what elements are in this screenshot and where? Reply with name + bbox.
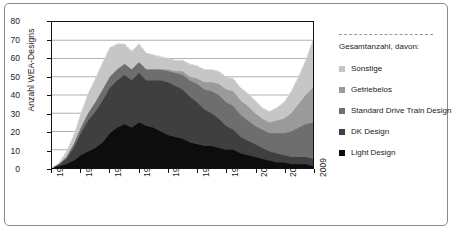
plot-region <box>51 21 314 169</box>
legend-swatch-icon <box>339 129 345 135</box>
y-axis-tick-label: 50 <box>0 72 20 82</box>
legend-item[interactable]: Getriebelos <box>339 86 449 94</box>
legend-item-label: Getriebelos <box>351 86 392 94</box>
legend-item-label: Sonstige <box>351 65 382 73</box>
x-axis-tick-mark <box>168 169 169 173</box>
y-axis-tick-label: 30 <box>0 109 20 119</box>
x-axis-tick-mark <box>139 169 140 173</box>
x-axis-tick-label: 2009 <box>318 158 328 177</box>
legend-swatch-icon <box>339 87 345 93</box>
x-axis-tick-mark <box>80 169 81 173</box>
x-axis-tick-mark <box>256 169 257 173</box>
legend-item-label: Standard Drive Train Design <box>351 107 452 115</box>
y-axis-tick-label: 10 <box>0 146 20 156</box>
legend-item[interactable]: Sonstige <box>339 65 449 73</box>
chart-legend: Gesamtanzahl, davon: SonstigeGetriebelos… <box>339 34 449 170</box>
y-axis-tick-label: 60 <box>0 53 20 63</box>
legend-item-label: DK Design <box>351 128 389 136</box>
y-axis-tick-label: 20 <box>0 127 20 137</box>
figure-frame: Anzahl WEA-Designs 01020304050607080 197… <box>4 3 448 226</box>
stacked-area-plot <box>52 22 313 168</box>
legend-swatch-icon <box>339 66 345 72</box>
legend-item[interactable]: Light Design <box>339 149 449 157</box>
legend-swatch-icon <box>339 108 345 114</box>
legend-item-list: SonstigeGetriebelosStandard Drive Train … <box>339 65 449 157</box>
y-axis-tick-label: 80 <box>0 16 20 26</box>
x-axis-tick-mark <box>109 169 110 173</box>
y-axis-tick-label: 0 <box>0 164 20 174</box>
legend-item[interactable]: Standard Drive Train Design <box>339 107 449 115</box>
legend-item[interactable]: DK Design <box>339 128 449 136</box>
legend-item-label: Light Design <box>351 149 395 157</box>
y-axis-tick-label: 70 <box>0 35 20 45</box>
legend-swatch-icon <box>339 150 345 156</box>
y-axis-tick-label: 40 <box>0 90 20 100</box>
legend-title: Gesamtanzahl, davon: <box>339 42 449 51</box>
x-axis-tick-mark <box>51 169 52 173</box>
legend-total-dashed-line <box>339 34 433 35</box>
x-axis-tick-mark <box>226 169 227 173</box>
x-axis-tick-mark <box>285 169 286 173</box>
x-axis-tick-mark <box>197 169 198 173</box>
y-axis-label: Anzahl WEA-Designs <box>26 10 36 130</box>
x-axis-tick-mark <box>314 169 315 173</box>
chart-area: Anzahl WEA-Designs 01020304050607080 197… <box>14 13 324 216</box>
